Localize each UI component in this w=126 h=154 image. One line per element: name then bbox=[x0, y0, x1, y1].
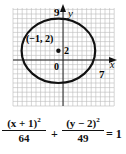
equals-one: = 1 bbox=[106, 127, 122, 142]
fraction-y: (y − 2)2 49 bbox=[62, 116, 104, 144]
ellipse-graph: 9 y (−1, 2) 2 0 7 x bbox=[0, 0, 126, 112]
center-point bbox=[56, 49, 60, 53]
y-tick-label: 9 bbox=[54, 6, 60, 18]
y-axis-label: y bbox=[67, 7, 73, 19]
grid bbox=[13, 8, 114, 106]
x-tick-label: 7 bbox=[99, 68, 105, 80]
plus-sign: + bbox=[51, 127, 58, 142]
y-axis-arrow-icon bbox=[60, 4, 66, 12]
exponent-y: 2 bbox=[96, 116, 100, 124]
center-label: (−1, 2) bbox=[26, 33, 53, 45]
exponent-x: 2 bbox=[37, 116, 41, 124]
denominator-x: 64 bbox=[2, 132, 46, 144]
ellipse-equation: (x + 1)2 64 + (y − 2)2 49 = 1 bbox=[2, 112, 124, 152]
fraction-x: (x + 1)2 64 bbox=[2, 116, 46, 144]
numerator-x: (x + 1) bbox=[7, 117, 37, 129]
x-axis-label: x bbox=[109, 59, 115, 70]
origin-label: 0 bbox=[54, 61, 59, 72]
numerator-y: (y − 2) bbox=[66, 117, 96, 129]
denominator-y: 49 bbox=[62, 132, 104, 144]
center-y-tick-label: 2 bbox=[64, 45, 69, 56]
